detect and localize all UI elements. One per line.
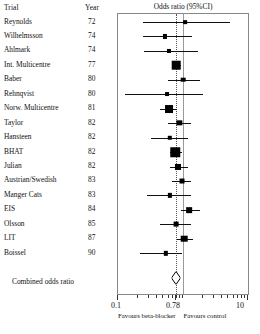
point-estimate-marker [164, 251, 168, 255]
confidence-interval-line [144, 51, 198, 52]
trial-year: 74 [88, 45, 95, 54]
trial-year: 82 [88, 132, 95, 141]
trial-year: 82 [88, 118, 95, 127]
point-estimate-marker [167, 135, 171, 139]
axis-tick-label: 10 [236, 301, 244, 310]
axis-tick-minor [168, 295, 169, 298]
column-header-trial: Trial [4, 3, 19, 12]
point-estimate-marker [171, 147, 180, 156]
trial-name: Julian [4, 161, 22, 170]
x-axis-labels: 0.10.7810 [98, 301, 260, 312]
trial-name: Manger Cats [4, 190, 42, 199]
axis-tick-minor [182, 295, 183, 298]
trial-year: 80 [88, 74, 95, 83]
trial-name: Baber [4, 74, 22, 83]
point-estimate-marker [165, 92, 169, 96]
axis-tick-label: 0.78 [166, 301, 180, 310]
point-estimate-marker [167, 49, 171, 53]
trial-year: 81 [88, 103, 95, 112]
axis-tick-minor [237, 295, 238, 298]
trial-name: Ahlmark [4, 45, 30, 54]
favours-treatment-label: Favours beta-blocker [118, 312, 176, 319]
point-estimate-marker [162, 34, 166, 38]
trial-name: EIS [4, 204, 15, 213]
axis-tick-minor [156, 295, 157, 298]
plot-area [117, 13, 249, 295]
confidence-interval-line [143, 36, 193, 37]
favours-control-label: Favours control [184, 312, 227, 319]
combined-estimate-diamond [171, 271, 180, 284]
trial-year: 80 [88, 89, 95, 98]
axis-tick-minor [241, 295, 242, 298]
axis-tick-major [247, 295, 248, 300]
point-estimate-marker [177, 120, 182, 125]
trial-name: Hansteen [4, 132, 32, 141]
trial-name: Taylor [4, 118, 23, 127]
axis-footnotes: Favours beta-blocker Favours control [100, 312, 260, 324]
point-estimate-marker [184, 20, 188, 24]
axis-tick-label: 0.1 [111, 301, 121, 310]
point-estimate-marker [165, 105, 173, 113]
trial-name: LIT [4, 233, 16, 242]
axis-tick-minor [233, 295, 234, 298]
confidence-interval-line [140, 253, 181, 254]
trial-name: Wilhelmsson [4, 31, 43, 40]
column-header-year: Year [85, 3, 99, 12]
trial-name: Norw. Multicentre [4, 103, 59, 112]
null-reference-line [183, 14, 184, 294]
trial-year: 77 [88, 60, 95, 69]
point-estimate-marker [179, 178, 184, 183]
trial-name: Reynolds [4, 17, 32, 26]
trial-name: Int. Multicentre [4, 60, 50, 69]
axis-tick-minor [202, 295, 203, 298]
axis-tick-minor [221, 295, 222, 298]
trial-year: 82 [88, 161, 95, 170]
axis-tick-minor [179, 295, 180, 298]
trial-year: 90 [88, 248, 95, 257]
trial-year: 87 [88, 233, 95, 242]
point-estimate-marker [172, 61, 181, 70]
axis-tick-major [117, 295, 118, 300]
axis-tick-minor [162, 295, 163, 298]
trial-year: 85 [88, 219, 95, 228]
point-estimate-marker [186, 207, 192, 213]
trial-year: 74 [88, 31, 95, 40]
trial-year: 84 [88, 204, 95, 213]
point-estimate-marker [167, 193, 171, 197]
axis-tick-major [175, 295, 176, 300]
axis-tick-minor [244, 295, 245, 298]
trial-year: 72 [88, 17, 95, 26]
point-estimate-marker [174, 222, 179, 227]
trial-name: Olsson [4, 219, 25, 228]
trial-year: 83 [88, 190, 95, 199]
point-estimate-marker [175, 163, 181, 169]
trial-year: 83 [88, 175, 95, 184]
trial-table: Trial Year Reynolds72Wilhelmsson74Ahlmar… [0, 0, 117, 300]
trial-name: BHAT [4, 147, 23, 156]
trial-name: Boissel [4, 248, 26, 257]
combined-odds-ratio-label: Combined odds ratio [12, 277, 74, 286]
trial-name: Austrian/Swedish [4, 175, 57, 184]
axis-tick-minor [137, 295, 138, 298]
point-estimate-marker [181, 235, 188, 242]
axis-tick-minor [227, 295, 228, 298]
axis-tick-minor [148, 295, 149, 298]
trial-year: 82 [88, 147, 95, 156]
plot-title: Odds ratio (95%CI) [117, 2, 249, 11]
forest-plot-figure: Trial Year Reynolds72Wilhelmsson74Ahlmar… [0, 0, 260, 334]
trial-name: Rehnqvist [4, 89, 34, 98]
point-estimate-marker [181, 77, 186, 82]
axis-tick-minor [172, 295, 173, 298]
axis-tick-minor [213, 295, 214, 298]
